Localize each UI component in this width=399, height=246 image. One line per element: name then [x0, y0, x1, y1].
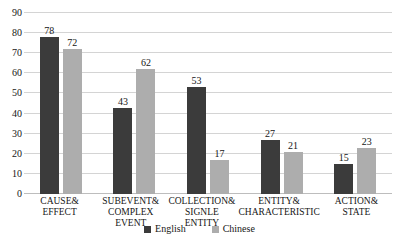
- y-axis-tick-label: 50: [0, 88, 22, 98]
- bar-column: 27: [261, 13, 280, 194]
- bar-english[interactable]: [40, 37, 59, 194]
- bar-column: 23: [357, 13, 376, 194]
- bar-group: 1523: [318, 13, 392, 194]
- x-axis-category-line: ACTION&: [335, 196, 378, 206]
- y-axis-tick-label: 40: [0, 109, 22, 119]
- legend-label: English: [155, 224, 186, 234]
- y-axis-tick-label: 90: [0, 8, 22, 18]
- y-axis: 0102030405060708090: [0, 13, 22, 194]
- bar-column: 62: [136, 13, 155, 194]
- bar-english[interactable]: [113, 108, 132, 194]
- chart-plot-bars: 78724362531727211523: [24, 13, 392, 194]
- bar-column: 21: [284, 13, 303, 194]
- x-axis-category-line: SUBEVENT&: [102, 196, 159, 206]
- bar-chinese[interactable]: [284, 152, 303, 194]
- x-axis-category-line: STATE: [322, 207, 391, 218]
- bar-english[interactable]: [261, 140, 280, 194]
- bar-chinese[interactable]: [210, 160, 229, 194]
- bar-value-label: 17: [214, 148, 224, 159]
- bar-group: 5317: [171, 13, 245, 194]
- y-axis-tick-label: 0: [0, 189, 22, 199]
- legend-item-chinese[interactable]: Chinese: [212, 224, 255, 234]
- bar-value-label: 43: [118, 96, 128, 107]
- bar-chinese[interactable]: [63, 49, 82, 194]
- bar-column: 72: [63, 13, 82, 194]
- bar-chart: 0102030405060708090 78724362531727211523…: [0, 0, 399, 246]
- bar-value-label: 72: [67, 37, 77, 48]
- bar-value-label: 62: [141, 57, 151, 68]
- bar-english[interactable]: [187, 87, 206, 194]
- y-axis-tick-label: 60: [0, 68, 22, 78]
- x-axis-category-line: CHARACTERISTIC: [239, 207, 320, 218]
- bar-value-label: 21: [288, 140, 298, 151]
- bar-column: 15: [334, 13, 353, 194]
- x-axis-category-line: ENTITY&: [258, 196, 300, 206]
- bar-group: 7872: [24, 13, 98, 194]
- bar-column: 43: [113, 13, 132, 194]
- bar-column: 17: [210, 13, 229, 194]
- y-axis-tick-label: 20: [0, 149, 22, 159]
- legend-label: Chinese: [223, 224, 255, 234]
- chart-legend: EnglishChinese: [0, 224, 399, 234]
- bar-value-label: 53: [191, 75, 201, 86]
- bar-value-label: 23: [362, 136, 372, 147]
- x-axis-category-line: COLLECTION&: [168, 196, 235, 206]
- y-axis-tick-label: 10: [0, 169, 22, 179]
- bar-group: 4362: [98, 13, 172, 194]
- bar-value-label: 78: [44, 25, 54, 36]
- y-axis-tick-label: 70: [0, 48, 22, 58]
- legend-item-english[interactable]: English: [144, 224, 186, 234]
- legend-swatch-icon: [144, 226, 151, 233]
- bar-column: 53: [187, 13, 206, 194]
- bar-chinese[interactable]: [136, 69, 155, 194]
- bar-group: 2721: [245, 13, 319, 194]
- bar-chinese[interactable]: [357, 148, 376, 194]
- bar-value-label: 27: [265, 128, 275, 139]
- bar-english[interactable]: [334, 164, 353, 194]
- bar-value-label: 15: [339, 152, 349, 163]
- y-axis-tick-label: 80: [0, 28, 22, 38]
- y-axis-tick-label: 30: [0, 129, 22, 139]
- bar-column: 78: [40, 13, 59, 194]
- x-axis-category-line: CAUSE&: [40, 196, 79, 206]
- x-axis-category-line: EFFECT: [25, 207, 94, 218]
- legend-swatch-icon: [212, 226, 219, 233]
